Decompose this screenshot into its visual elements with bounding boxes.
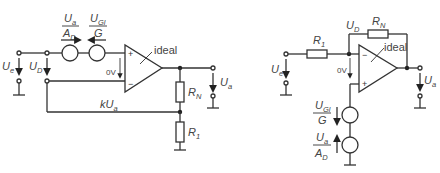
voltage-source-ugl-g — [89, 45, 105, 61]
source2-denominator: G — [94, 27, 103, 39]
left-circuit: Ue UD Ua AD UGl G + − ideal 0V kUa — [2, 12, 232, 150]
resistor-r1 — [307, 50, 327, 58]
source2-numerator: Ua — [316, 131, 328, 146]
plus-pin: + — [362, 79, 367, 89]
rn-label: RN — [188, 86, 202, 101]
source1-denominator: G — [318, 114, 327, 126]
kua-label: kUa — [100, 98, 118, 113]
ua-label: Ua — [424, 74, 436, 89]
voltage-source-ua-ad — [342, 137, 358, 153]
ud-label: UD — [29, 60, 43, 75]
input-terminal-top — [17, 51, 21, 55]
source2-numerator: UGl — [90, 12, 106, 27]
voltage-source-ugl-g — [342, 107, 358, 123]
ideal-label: ideal — [154, 44, 177, 56]
plus-pin: + — [128, 49, 133, 59]
resistor-rn — [176, 82, 184, 102]
r1-label: R1 — [313, 34, 325, 49]
resistor-rn — [368, 30, 388, 38]
source1-numerator: Ua — [64, 12, 76, 27]
ue-label: Ue — [2, 60, 14, 75]
voltage-source-ua-ad — [62, 45, 78, 61]
ua-label: Ua — [220, 76, 232, 91]
minus-pin: − — [128, 79, 133, 89]
resistor-r1 — [176, 122, 184, 142]
ud-label: UD — [346, 19, 360, 34]
r1-label: R1 — [188, 126, 200, 141]
source1-numerator: UGl — [315, 99, 331, 114]
input-terminal-bottom — [17, 79, 21, 83]
circuit-diagrams: Ue UD Ua AD UGl G + − ideal 0V kUa — [0, 0, 440, 173]
ideal-label: ideal — [384, 41, 407, 53]
zero-volt-label: 0V — [337, 66, 347, 75]
right-circuit: Ue R1 RN UD − + ideal 0V UGl — [271, 15, 436, 165]
zero-volt-label: 0V — [106, 68, 116, 77]
source2-denominator: AD — [314, 147, 328, 162]
rn-label: RN — [372, 15, 386, 30]
minus-pin: − — [362, 50, 367, 60]
ue-label: Ue — [271, 63, 283, 78]
